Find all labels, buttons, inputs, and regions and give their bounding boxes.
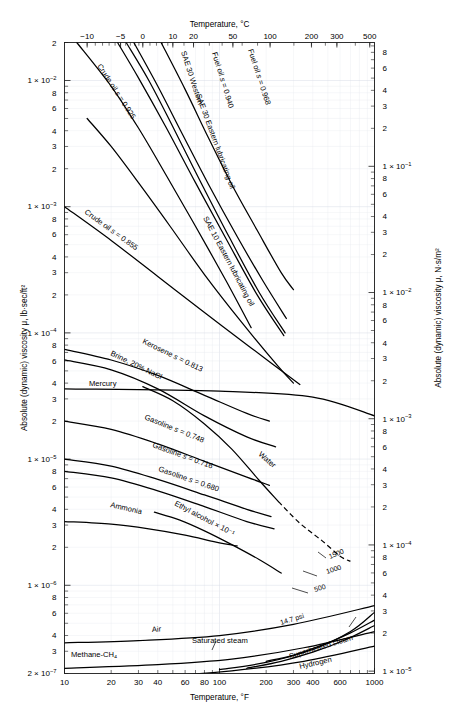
y-tick-label-left-minor: 4	[52, 253, 57, 262]
x-tick-label-top: 10	[168, 32, 177, 41]
y-tick-label-left-minor: 3	[52, 521, 57, 530]
y-tick-label-left-minor: 4	[52, 379, 57, 388]
y-tick-label-left-minor: 4	[52, 631, 57, 640]
y-tick-label-left-minor: 8	[52, 593, 57, 602]
y-tick-label-right-minor: 3	[383, 481, 388, 490]
curve-label-sae-10-eastern-lubricating-oil: SAE 10 Eastern lubricating oil	[201, 215, 256, 308]
x-tick-label-bottom: 20	[107, 678, 116, 687]
y-tick-label-left-minor: 8	[52, 89, 57, 98]
y-tick-label-right-minor: 2	[383, 250, 388, 259]
y-tick-label-right-minor: 2	[383, 503, 388, 512]
y-tick-label-left-minor: 2	[52, 291, 57, 300]
curve-label-crude-oil-s-0-925: Crude oil s = 0.925	[95, 62, 137, 121]
leader-line-4	[292, 588, 308, 593]
curve-label-fuel-oil-s-0-968: Fuel oil s = 0.968	[246, 48, 273, 106]
y-tick-label-right-minor: 8	[383, 174, 388, 183]
curve-brine-20-nacl	[65, 360, 276, 447]
x-tick-label-top: −5	[116, 32, 126, 41]
y-tick-label-right-minor: 8	[383, 553, 388, 562]
curve-gasoline-s-0-680	[65, 471, 275, 529]
x-tick-label-bottom: 80	[200, 678, 209, 687]
axis-decade-label: 1 × 10−2	[27, 75, 56, 85]
y-axis-title-right: Absolute (dynamic) viscosity μ, N·s/m²	[434, 248, 443, 388]
x-tick-label-top: 20	[189, 32, 198, 41]
viscosity-chart-svg: 1020304060801002003004006001000Temperatu…	[0, 0, 455, 722]
y-tick-label-left-minor: 3	[52, 395, 57, 404]
y-tick-label-right-minor: 6	[383, 64, 388, 73]
y-tick-label-right-minor: 3	[383, 102, 388, 111]
axis-decade-label: 1 × 10−5	[27, 454, 56, 464]
x-tick-label-bottom: 10	[60, 678, 69, 687]
x-tick-label-bottom: 600	[333, 678, 347, 687]
axis-decade-label: 1 × 10−1	[383, 161, 412, 171]
x-tick-label-top: 0	[141, 32, 146, 41]
y-axis-right: 1 × 10−11 × 10−21 × 10−31 × 10−41 × 10−5…	[369, 46, 413, 676]
y-tick-label-right-minor: 4	[383, 465, 388, 474]
curve-label-brine-20-nacl: Brine, 20% NaCl	[109, 349, 164, 382]
x-axis-title-bottom: Temperature, °F	[190, 693, 249, 702]
x-tick-label-top: −10	[80, 32, 94, 41]
curve-label-hydrogen: Hydrogen	[298, 655, 332, 671]
axis-decade-label: 1 × 10−5	[383, 666, 412, 676]
curve-label-saturated-steam: Saturated steam	[192, 636, 248, 645]
viscosity-chart-figure: 1020304060801002003004006001000Temperatu…	[0, 0, 455, 722]
leader-line-2	[318, 552, 326, 558]
pressure-label-500: 500	[313, 583, 326, 593]
x-axis-top: −10−50102050100200300500	[80, 32, 377, 48]
axis-decade-label: 1 × 10−6	[27, 580, 56, 590]
y-tick-label-left-minor: 3	[52, 647, 57, 656]
x-tick-label-top: 200	[305, 32, 319, 41]
y-tick-label-right-minor: 3	[383, 607, 388, 616]
y-tick-label-right-minor: 3	[383, 228, 388, 237]
curve-label-mercury: Mercury	[89, 379, 117, 388]
y-tick-label-left-minor: 2	[52, 417, 57, 426]
y-tick-label-left-minor: 8	[52, 467, 57, 476]
curve-label-ethyl-alcohol-10: Ethyl alcohol × 10⁻¹	[173, 499, 237, 538]
curve-label-water: Water	[257, 450, 278, 470]
axis-decade-label: 2 × 10−7	[27, 668, 56, 678]
axis-decade-label: 1 × 10−4	[383, 540, 413, 550]
y-tick-label-right-minor: 6	[383, 443, 388, 452]
y-tick-label-right-minor: 2	[383, 629, 388, 638]
y-tick-label-right-minor: 2	[383, 124, 388, 133]
axis-decade-label: 1 × 10−3	[27, 201, 56, 211]
x-tick-label-top: 100	[263, 32, 277, 41]
y-tick-label-left-minor: 4	[52, 505, 57, 514]
x-tick-label-bottom: 300	[287, 678, 301, 687]
leader-line-1	[349, 617, 356, 627]
x-tick-label-top: 300	[330, 32, 344, 41]
curve-label-air: Air	[152, 624, 162, 634]
y-tick-label-right-minor: 6	[383, 569, 388, 578]
y-axis-title-left: Absolute (dynamic) viscosity μ, lb·sec/f…	[20, 285, 29, 431]
x-tick-label-bottom: 40	[153, 678, 162, 687]
y-tick-label-right-minor: 8	[383, 301, 388, 310]
y-tick-label-right-minor: 3	[383, 354, 388, 363]
y-tick-label-left-minor: 6	[52, 483, 57, 492]
x-tick-label-top: 50	[228, 32, 237, 41]
y-tick-label-left-minor: 8	[52, 341, 57, 350]
axis-decade-label: 1 × 10−2	[383, 287, 412, 297]
x-tick-label-top: 500	[363, 32, 377, 41]
y-tick-label-left-minor: 2	[52, 543, 57, 552]
curve-sae-10-eastern-lubricating-oil	[87, 118, 293, 383]
y-tick-label-right-minor: 8	[383, 427, 388, 436]
x-tick-label-bottom: 100	[213, 678, 227, 687]
y-tick-label-right-minor: 4	[383, 86, 388, 95]
y-tick-label-right-minor: 4	[383, 339, 388, 348]
y-tick-label-left-minor: 6	[52, 609, 57, 618]
curve-label-fuel-oil-s-0-940: Fuel oil s = 0.940	[210, 51, 236, 109]
y-axis-left: 1 × 10−21 × 10−31 × 10−41 × 10−51 × 10−6…	[27, 39, 70, 679]
x-tick-label-bottom: 60	[181, 678, 190, 687]
y-tick-label-right-minor: 4	[383, 591, 388, 600]
y-tick-label-right-minor: 4	[383, 212, 388, 221]
y-tick-label-left-minor: 3	[52, 142, 57, 151]
x-tick-label-bottom: 200	[259, 678, 273, 687]
y-tick-label-left-minor: 8	[52, 215, 57, 224]
y-tick-label-left-minor: 6	[52, 104, 57, 113]
leader-line-3	[303, 571, 317, 576]
x-tick-label-bottom: 400	[306, 678, 320, 687]
x-axis-bottom: 1020304060801002003004006001000	[60, 668, 384, 687]
y-tick-label-right-minor: 2	[383, 377, 388, 386]
y-tick-label-left-minor: 3	[52, 268, 57, 277]
x-tick-label-bottom: 1000	[366, 678, 384, 687]
